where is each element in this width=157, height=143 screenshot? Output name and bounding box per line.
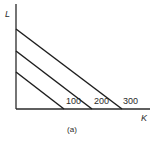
isoquant-lines: 100200300 [16, 29, 138, 109]
isoquant-diagram: L K 100200300 (a) [0, 0, 157, 143]
isoquant-label-100: 100 [66, 96, 81, 106]
isoquant-line-100 [16, 72, 64, 109]
x-axis-label: K [141, 113, 148, 123]
y-axis-label: L [5, 9, 10, 19]
figure-caption: (a) [67, 125, 77, 134]
isoquant-label-300: 300 [123, 96, 138, 106]
